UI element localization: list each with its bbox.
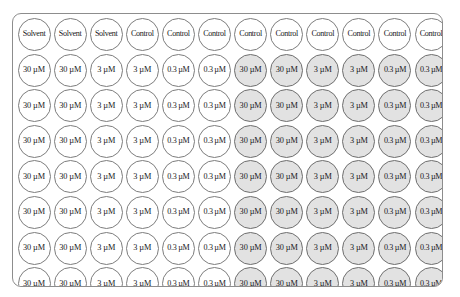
well[interactable]: 0.3 µM	[378, 267, 411, 287]
well[interactable]: 0.3 µM	[162, 267, 195, 287]
well[interactable]: 30 µM	[18, 160, 51, 193]
well[interactable]: Solvent	[54, 18, 87, 51]
well[interactable]: Solvent	[18, 18, 51, 51]
well[interactable]: 3 µM	[306, 54, 339, 87]
well[interactable]: 30 µM	[18, 89, 51, 122]
well[interactable]: 0.3 µM	[415, 196, 443, 229]
well[interactable]: 3 µM	[126, 196, 159, 229]
well[interactable]: 30 µM	[54, 232, 87, 265]
well[interactable]: 30 µM	[18, 125, 51, 158]
well[interactable]: 3 µM	[306, 267, 339, 287]
well[interactable]: 0.3 µM	[162, 232, 195, 265]
well[interactable]: 30 µM	[270, 196, 303, 229]
well[interactable]: 3 µM	[126, 160, 159, 193]
well[interactable]: 0.3 µM	[415, 89, 443, 122]
well[interactable]: 0.3 µM	[198, 89, 231, 122]
well[interactable]: Control	[306, 18, 339, 51]
well[interactable]: 0.3 µM	[415, 160, 443, 193]
well[interactable]: 0.3 µM	[198, 196, 231, 229]
well[interactable]: 30 µM	[234, 89, 267, 122]
well[interactable]: 3 µM	[90, 125, 123, 158]
well[interactable]: 30 µM	[18, 267, 51, 287]
well[interactable]: 30 µM	[270, 267, 303, 287]
well[interactable]: 30 µM	[54, 196, 87, 229]
well[interactable]: 3 µM	[342, 232, 375, 265]
well[interactable]: 3 µM	[306, 196, 339, 229]
well[interactable]: 3 µM	[342, 267, 375, 287]
well[interactable]: 30 µM	[270, 160, 303, 193]
well[interactable]: 0.3 µM	[378, 160, 411, 193]
well[interactable]: 0.3 µM	[162, 125, 195, 158]
well[interactable]: 30 µM	[54, 160, 87, 193]
well[interactable]: 30 µM	[54, 54, 87, 87]
well[interactable]: 3 µM	[342, 89, 375, 122]
well[interactable]: 0.3 µM	[378, 125, 411, 158]
well[interactable]: 3 µM	[90, 160, 123, 193]
well[interactable]: 0.3 µM	[162, 160, 195, 193]
well-label: 30 µM	[23, 137, 45, 145]
well[interactable]: 30 µM	[270, 232, 303, 265]
well[interactable]: Control	[126, 18, 159, 51]
well[interactable]: 30 µM	[234, 160, 267, 193]
well[interactable]: 30 µM	[270, 125, 303, 158]
well[interactable]: 3 µM	[126, 125, 159, 158]
well[interactable]: Control	[415, 18, 443, 51]
well[interactable]: 30 µM	[18, 54, 51, 87]
well[interactable]: 3 µM	[126, 267, 159, 287]
well[interactable]: 3 µM	[342, 196, 375, 229]
well[interactable]: 3 µM	[126, 232, 159, 265]
well[interactable]: 3 µM	[306, 125, 339, 158]
well[interactable]: 30 µM	[54, 267, 87, 287]
well[interactable]: 30 µM	[270, 54, 303, 87]
well[interactable]: 0.3 µM	[415, 267, 443, 287]
well[interactable]: 3 µM	[342, 125, 375, 158]
well[interactable]: 3 µM	[126, 89, 159, 122]
well[interactable]: 3 µM	[90, 54, 123, 87]
well[interactable]: 0.3 µM	[378, 89, 411, 122]
well[interactable]: 30 µM	[234, 54, 267, 87]
well[interactable]: 30 µM	[54, 89, 87, 122]
well[interactable]: 0.3 µM	[162, 196, 195, 229]
well[interactable]: 0.3 µM	[162, 54, 195, 87]
well[interactable]: 0.3 µM	[162, 89, 195, 122]
well[interactable]: 3 µM	[126, 54, 159, 87]
well[interactable]: 30 µM	[18, 232, 51, 265]
well[interactable]: Control	[162, 18, 195, 51]
well-label: Control	[239, 30, 262, 38]
well[interactable]: 3 µM	[306, 232, 339, 265]
well[interactable]: Control	[198, 18, 231, 51]
well[interactable]: Solvent	[90, 18, 123, 51]
well[interactable]: 3 µM	[90, 196, 123, 229]
well[interactable]: Control	[234, 18, 267, 51]
well[interactable]: 30 µM	[270, 89, 303, 122]
well[interactable]: 3 µM	[306, 160, 339, 193]
well[interactable]: 30 µM	[234, 125, 267, 158]
well[interactable]: Control	[378, 18, 411, 51]
well[interactable]: 0.3 µM	[378, 54, 411, 87]
well[interactable]: 0.3 µM	[415, 232, 443, 265]
well[interactable]: 30 µM	[234, 232, 267, 265]
well[interactable]: Control	[270, 18, 303, 51]
well[interactable]: 3 µM	[90, 267, 123, 287]
well[interactable]: 3 µM	[342, 160, 375, 193]
well[interactable]: 30 µM	[234, 196, 267, 229]
well[interactable]: Control	[342, 18, 375, 51]
well[interactable]: 3 µM	[342, 54, 375, 87]
well[interactable]: 30 µM	[18, 196, 51, 229]
well[interactable]: 0.3 µM	[198, 125, 231, 158]
well-label: 0.3 µM	[420, 173, 442, 181]
well-label: 30 µM	[240, 173, 262, 181]
well[interactable]: 0.3 µM	[378, 196, 411, 229]
well[interactable]: 0.3 µM	[415, 54, 443, 87]
well[interactable]: 30 µM	[234, 267, 267, 287]
well[interactable]: 3 µM	[306, 89, 339, 122]
well[interactable]: 0.3 µM	[198, 232, 231, 265]
well[interactable]: 30 µM	[54, 125, 87, 158]
well[interactable]: 0.3 µM	[378, 232, 411, 265]
well[interactable]: 0.3 µM	[198, 160, 231, 193]
well[interactable]: 3 µM	[90, 232, 123, 265]
well[interactable]: 0.3 µM	[198, 267, 231, 287]
well[interactable]: 0.3 µM	[198, 54, 231, 87]
well[interactable]: 3 µM	[90, 89, 123, 122]
well[interactable]: 0.3 µM	[415, 125, 443, 158]
